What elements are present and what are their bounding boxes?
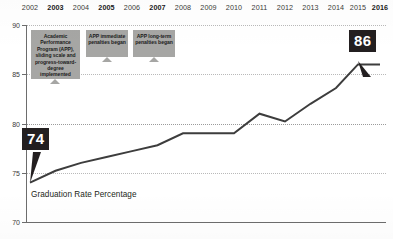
year-label-2003: 2003	[47, 3, 63, 12]
year-label-2010: 2010	[226, 3, 242, 12]
year-label-2004: 2004	[73, 3, 89, 12]
year-label-2009: 2009	[200, 3, 216, 12]
value-flag-start: 74	[22, 128, 49, 150]
year-label-2011: 2011	[252, 3, 268, 12]
year-label-2015: 2015	[350, 3, 366, 12]
year-label-2006: 2006	[124, 3, 140, 12]
year-label-2002: 2002	[22, 3, 38, 12]
year-label-2008: 2008	[175, 3, 191, 12]
year-label-2007: 2007	[149, 3, 165, 12]
plot-area: 90 85 80 75 70 Academic Performance Prog…	[0, 16, 393, 239]
year-label-2012: 2012	[277, 3, 293, 12]
data-line	[0, 16, 393, 239]
year-label-2014: 2014	[328, 3, 344, 12]
year-label-2005: 2005	[98, 3, 114, 12]
year-label-2016: 2016	[372, 3, 388, 12]
graduation-rate-chart: 2002 2003 2004 2005 2006 2007 2008 2009 …	[0, 0, 393, 239]
series-label: Graduation Rate Percentage	[31, 190, 137, 199]
year-label-2013: 2013	[302, 3, 318, 12]
value-flag-end: 86	[349, 30, 376, 52]
